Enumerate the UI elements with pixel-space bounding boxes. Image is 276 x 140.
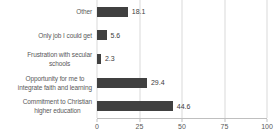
x-axis-tick-label: 75 xyxy=(221,123,229,130)
bar xyxy=(97,30,107,40)
x-axis-tick xyxy=(182,119,183,122)
x-axis-tick xyxy=(97,119,98,122)
category-label-line: schools xyxy=(27,59,92,68)
x-axis-tick-label: 100 xyxy=(261,123,273,130)
category-label: Frustration with secularschools xyxy=(0,47,97,71)
category-label: Commitment to Christianhigher education xyxy=(0,94,97,118)
value-label: 44.6 xyxy=(177,103,191,110)
value-label: 2.3 xyxy=(105,55,115,62)
bar xyxy=(97,101,173,111)
chart-row: Frustration with secularschools2.3 xyxy=(0,47,267,71)
x-axis-tick-label: 0 xyxy=(95,123,99,130)
bar-track: 5.6 xyxy=(97,24,267,48)
value-label: 18.1 xyxy=(132,8,146,15)
chart-row: Opportunity for me tointegrate faith and… xyxy=(0,71,267,95)
category-label: Only job I could get xyxy=(0,24,97,48)
bar xyxy=(97,7,128,17)
x-axis-tick xyxy=(267,119,268,122)
category-label-line: Frustration with secular xyxy=(27,50,92,59)
category-label: Opportunity for me tointegrate faith and… xyxy=(0,71,97,95)
category-label-line: Opportunity for me to xyxy=(18,74,92,83)
x-axis-tick-label: 50 xyxy=(178,123,186,130)
chart-row: Other18.1 xyxy=(0,0,267,24)
category-label: Other xyxy=(0,0,97,24)
horizontal-bar-chart: Other18.1Only job I could get5.6Frustrat… xyxy=(0,0,276,140)
x-axis-tick xyxy=(224,119,225,122)
value-label: 5.6 xyxy=(111,32,121,39)
bar-track: 44.6 xyxy=(97,94,267,118)
x-axis-tick-label: 25 xyxy=(136,123,144,130)
value-label: 29.4 xyxy=(151,79,165,86)
bar-track: 2.3 xyxy=(97,47,267,71)
category-label-line: Commitment to Christian xyxy=(23,97,92,106)
x-axis-line xyxy=(97,118,267,119)
category-label-line: Other xyxy=(76,7,92,16)
chart-row: Commitment to Christianhigher education4… xyxy=(0,94,267,118)
bar-track: 18.1 xyxy=(97,0,267,24)
bar-track: 29.4 xyxy=(97,71,267,95)
category-label-line: Only job I could get xyxy=(38,31,92,40)
chart-rows: Other18.1Only job I could get5.6Frustrat… xyxy=(0,0,267,118)
bar xyxy=(97,54,101,64)
chart-row: Only job I could get5.6 xyxy=(0,24,267,48)
x-axis-tick xyxy=(139,119,140,122)
x-axis-tick-labels: 0255075100 xyxy=(97,123,267,135)
bar xyxy=(97,78,147,88)
category-label-line: integrate faith and learning xyxy=(18,83,92,92)
category-label-line: higher education xyxy=(23,106,92,115)
